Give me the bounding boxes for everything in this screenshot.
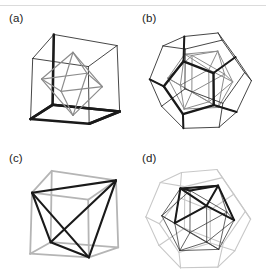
panel-c: (c) (0, 140, 133, 280)
figure-canvas: (a) (b) (c) (d) (0, 0, 266, 280)
panel-b-label: (b) (142, 13, 156, 25)
panel-a-label: (a) (9, 13, 23, 25)
panel-a: (a) (0, 0, 133, 140)
panel-c-label: (c) (9, 153, 23, 165)
panel-b: (b) (133, 0, 266, 140)
panel-d: (d) (133, 140, 266, 280)
panel-d-label: (d) (142, 153, 156, 165)
